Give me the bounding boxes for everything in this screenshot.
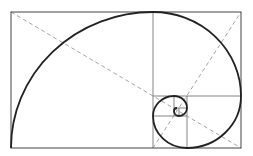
background <box>0 0 253 156</box>
golden-spiral-diagram <box>0 0 253 156</box>
